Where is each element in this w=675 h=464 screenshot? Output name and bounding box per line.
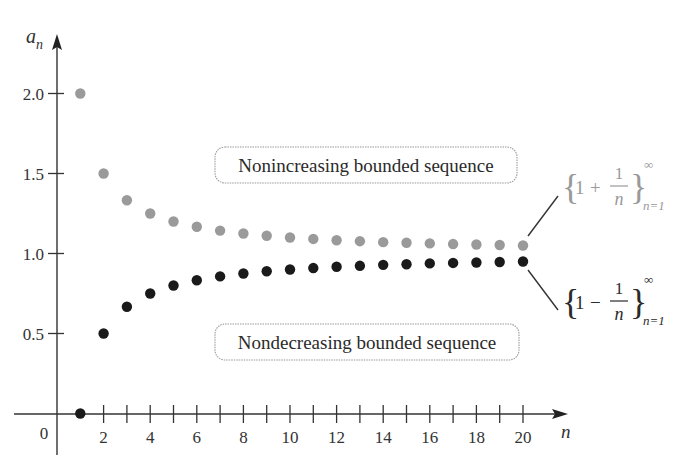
data-point — [308, 234, 318, 244]
data-point — [262, 266, 272, 276]
leader-line-upper — [528, 196, 558, 236]
annotation-lower-text: Nondecreasing bounded sequence — [238, 332, 497, 353]
annotation-upper-text: Nonincreasing bounded sequence — [238, 155, 493, 176]
formula-upper-sup: ∞ — [644, 157, 653, 172]
data-point — [331, 235, 341, 245]
x-tick-label: 12 — [328, 428, 345, 447]
data-point — [401, 238, 411, 248]
data-point — [238, 228, 248, 238]
y-tick-label: 0.5 — [23, 325, 44, 344]
x-tick-label: 8 — [239, 428, 248, 447]
x-tick-labels: 2468101214161820 — [99, 428, 531, 447]
formula-upper-denominator: n — [615, 189, 624, 209]
data-point — [75, 408, 85, 418]
x-tick-label: 2 — [99, 428, 108, 447]
formula-lower-sub: n=1 — [643, 313, 665, 328]
axes — [14, 34, 568, 455]
formula-upper-sub: n=1 — [643, 198, 665, 213]
x-tick-label: 10 — [282, 428, 299, 447]
data-point — [448, 258, 458, 268]
formula-lower-numerator: 1 — [615, 279, 624, 298]
sequence-chart: 2468101214161820 0.51.01.52.0 0 n an Non… — [0, 0, 675, 464]
data-point — [215, 271, 225, 281]
x-tick-label: 18 — [468, 428, 485, 447]
data-point — [471, 257, 481, 267]
data-point — [401, 259, 411, 269]
y-tick-label: 1.0 — [23, 245, 44, 264]
y-tick-label: 1.5 — [23, 165, 44, 184]
data-point — [285, 232, 295, 242]
formula-lower-sup: ∞ — [644, 272, 653, 287]
formula-lower-denominator: n — [615, 304, 624, 324]
y-ticks: 0.51.01.52.0 — [23, 85, 64, 344]
x-tick-label: 6 — [193, 428, 202, 447]
data-point — [168, 280, 178, 290]
formula-lower: { 1 − 1 n } ∞ n=1 — [562, 272, 665, 328]
data-point — [495, 240, 505, 250]
data-point — [518, 240, 528, 250]
data-point — [192, 222, 202, 232]
formula-lower-one: 1 — [575, 292, 585, 313]
data-point — [168, 216, 178, 226]
formula-upper-one: 1 — [575, 177, 585, 198]
data-point — [495, 257, 505, 267]
data-point — [98, 168, 108, 178]
x-tick-label: 16 — [421, 428, 438, 447]
data-point — [448, 239, 458, 249]
data-point — [145, 288, 155, 298]
formula-upper: { 1 + 1 n } ∞ n=1 — [562, 157, 665, 213]
data-point — [122, 195, 132, 205]
data-point — [308, 263, 318, 273]
data-point — [378, 260, 388, 270]
y-axis-label-sub: n — [36, 37, 43, 52]
data-point — [331, 262, 341, 272]
data-point — [355, 261, 365, 271]
y-axis-label-main: a — [26, 25, 36, 47]
data-point — [378, 237, 388, 247]
origin-label: 0 — [40, 424, 49, 443]
formula-lower-op: − — [590, 292, 601, 313]
x-tick-label: 20 — [515, 428, 532, 447]
data-point — [262, 231, 272, 241]
formula-upper-numerator: 1 — [615, 164, 624, 183]
data-point — [238, 268, 248, 278]
data-point — [122, 302, 132, 312]
data-point — [518, 256, 528, 266]
annotation-lower: Nondecreasing bounded sequence — [215, 324, 519, 360]
data-point — [355, 236, 365, 246]
data-point — [192, 275, 202, 285]
y-axis-label: an — [26, 25, 43, 52]
x-axis-label: n — [561, 421, 571, 442]
formula-upper-op: + — [590, 177, 601, 198]
x-tick-label: 14 — [375, 428, 393, 447]
data-point — [215, 225, 225, 235]
data-point — [425, 238, 435, 248]
data-point — [285, 264, 295, 274]
y-tick-label: 2.0 — [23, 85, 44, 104]
data-point — [471, 239, 481, 249]
data-point — [425, 258, 435, 268]
x-tick-label: 4 — [146, 428, 155, 447]
data-point — [145, 208, 155, 218]
data-points — [75, 88, 528, 418]
annotation-upper: Nonincreasing bounded sequence — [215, 147, 517, 183]
data-point — [98, 328, 108, 338]
leader-line-lower — [528, 270, 558, 310]
data-point — [75, 88, 85, 98]
